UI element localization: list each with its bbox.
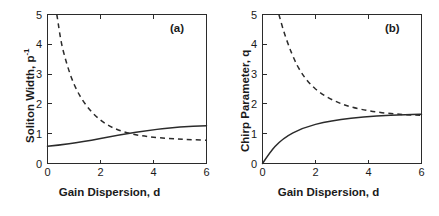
panel-b-axes	[263, 15, 422, 164]
panel-b-xticks	[263, 15, 422, 164]
panel-b-ytick-0: 0	[245, 158, 257, 169]
panel-a-xtick-4: 4	[150, 167, 156, 178]
panel-b-xtick-4: 4	[365, 167, 371, 178]
panel-b-yaxis-title: Chirp Parameter, q	[237, 50, 251, 152]
panel-a-xtick-6: 6	[203, 167, 209, 178]
panel-b: 5 4 3 2 1 0 0 2 4 6 Gain Dispersion, d C…	[219, 0, 438, 216]
panel-label-b: (b)	[385, 22, 400, 34]
panel-a-axes	[48, 15, 207, 164]
figure-container: 5 4 3 2 1 0 0 2 4 6 Gain Dispersion, d S…	[0, 0, 439, 216]
panel-b-ytick-5: 5	[245, 9, 257, 20]
panel-a-yaxis-title-exponent: -1	[22, 48, 31, 55]
panel-a-xtick-0: 0	[44, 167, 50, 178]
panel-a-yaxis-title-main: Soliton Width, p	[24, 56, 36, 143]
panel-b-yticks	[263, 15, 267, 164]
panel-b-axis-box	[263, 15, 422, 164]
panel-a-xtick-2: 2	[97, 167, 103, 178]
panel-b-dashed-curve	[279, 15, 422, 116]
panel-b-solid-curve	[263, 114, 422, 163]
panel-b-xtick-0: 0	[259, 167, 265, 178]
panel-a-xticks	[48, 15, 207, 164]
panel-b-ytick-4: 4	[245, 39, 257, 50]
panel-a-ytick-5: 5	[30, 9, 42, 20]
panel-a: 5 4 3 2 1 0 0 2 4 6 Gain Dispersion, d S…	[0, 0, 219, 216]
panel-b-yaxis-title-main: Chirp Parameter, q	[239, 50, 251, 152]
panel-a-yaxis-title: Soliton Width, p-1	[22, 48, 36, 143]
panel-a-solid-curve	[48, 126, 207, 147]
panel-b-xtick-6: 6	[418, 167, 424, 178]
panel-b-xtick-2: 2	[312, 167, 318, 178]
panel-a-axis-box	[48, 15, 207, 164]
panel-a-xaxis-title: Gain Dispersion, d	[0, 186, 219, 198]
panel-a-yticks	[48, 15, 52, 164]
panel-b-xaxis-title: Gain Dispersion, d	[219, 186, 438, 198]
panel-a-ytick-0: 0	[30, 158, 42, 169]
panel-label-a: (a)	[170, 22, 184, 34]
